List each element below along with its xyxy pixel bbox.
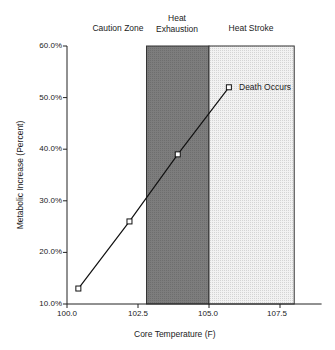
y-axis-title: Metabolic Increase (Percent) bbox=[15, 115, 25, 235]
data-point-marker bbox=[175, 152, 180, 157]
zone-label-heat-exhaustion-line1: Heat bbox=[145, 13, 209, 24]
chart-canvas bbox=[0, 0, 335, 350]
y-tick-label: 50.0% bbox=[22, 93, 62, 102]
y-tick-label: 60.0% bbox=[22, 41, 62, 50]
zone-label-heat-stroke: Heat Stroke bbox=[220, 23, 282, 34]
x-tick-label: 100.0 bbox=[52, 309, 82, 318]
zone-label-heat-exhaustion-line2: Exhaustion bbox=[145, 24, 209, 35]
x-tick-label: 105.0 bbox=[193, 309, 223, 318]
y-tick-label: 10.0% bbox=[22, 299, 62, 308]
y-tick-label: 30.0% bbox=[22, 196, 62, 205]
x-axis-title: Core Temperature (F) bbox=[134, 329, 216, 339]
x-tick-label: 102.5 bbox=[123, 309, 153, 318]
death-occurs-annotation: Death Occurs bbox=[239, 82, 291, 92]
zone-heat-exhaustion bbox=[147, 46, 209, 304]
data-point-marker bbox=[226, 85, 231, 90]
y-tick-label: 20.0% bbox=[22, 247, 62, 256]
zone-label-heat-exhaustion: Heat Exhaustion bbox=[145, 13, 209, 35]
y-tick-label: 40.0% bbox=[22, 144, 62, 153]
x-tick-label: 107.5 bbox=[262, 309, 292, 318]
data-point-marker bbox=[76, 286, 81, 291]
data-point-marker bbox=[127, 219, 132, 224]
